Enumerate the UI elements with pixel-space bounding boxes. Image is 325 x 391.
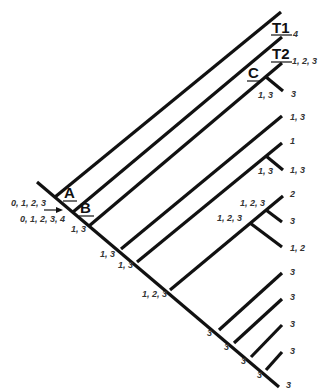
tip-label-b8: 3: [290, 292, 295, 302]
junction-label-b10: 3: [257, 370, 262, 380]
tip-label-b10: 3: [290, 346, 295, 356]
tip-label-b7: 3: [290, 267, 295, 277]
branch-10: [266, 352, 282, 370]
cladogram: A B C T1 T2 0, 1, 2, 3 0, 1, 2, 3, 4 4 1…: [0, 0, 325, 391]
tip-label-b6: 2: [289, 189, 295, 199]
root-below-label: 0, 1, 2, 3, 4: [20, 214, 65, 224]
branch-8: [234, 299, 282, 343]
tip-label-trunk-end: 3: [286, 380, 291, 390]
junction-label-b5-sub: 1, 3: [258, 166, 273, 176]
branch-6-sub2: [250, 223, 282, 247]
junction-label-c: 1, 3: [258, 90, 273, 100]
tip-label-b4: 1, 3: [290, 112, 305, 122]
junction-label-b6-sub2: 1, 2, 3: [217, 213, 242, 223]
tip-label-b5-sub: 1, 3: [290, 165, 305, 175]
junction-label-b6-sub1: 1, 2, 3: [240, 198, 265, 208]
junction-label-b9: 3: [241, 356, 246, 366]
junction-label-b5: 1, 3: [118, 260, 133, 270]
branch-t1: [55, 12, 281, 197]
tip-label-b9: 3: [290, 319, 295, 329]
branch-c-sub: [266, 77, 283, 91]
branch-9: [251, 325, 282, 357]
junction-label-b: 1, 3: [71, 224, 86, 234]
node-label-b: B: [80, 199, 91, 216]
tip-label-t1: 4: [292, 29, 298, 39]
junction-label-b8: 3: [224, 342, 229, 352]
junction-label-b6: 1, 2, 3: [142, 289, 167, 299]
branch-6-sub1: [266, 210, 282, 222]
tip-label-b6-sub2: 1, 2: [290, 243, 305, 253]
junction-label-b4: 1, 3: [100, 249, 115, 259]
junction-label-b7: 3: [207, 328, 212, 338]
node-label-a: A: [64, 184, 75, 201]
node-label-t2: T2: [272, 45, 290, 62]
tip-label-c-sub: 3: [291, 89, 296, 99]
node-label-t1: T1: [272, 19, 290, 36]
root-arrow-label: 0, 1, 2, 3: [11, 198, 46, 208]
tip-label-t2: 1, 2, 3: [292, 56, 317, 66]
node-label-c: C: [248, 64, 259, 81]
arrow-head-icon: [56, 207, 63, 213]
tip-label-b6-sub1: 3: [290, 216, 295, 226]
branch-7: [219, 273, 282, 330]
tip-label-b5: 1: [290, 136, 295, 146]
